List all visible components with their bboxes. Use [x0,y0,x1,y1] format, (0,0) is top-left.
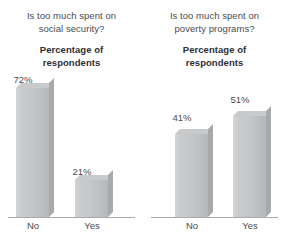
bar-yes [233,116,266,217]
bar-side-face-yes [266,106,271,217]
plot-area: 72% 21% [0,74,143,218]
category-axis-labels: No Yes [143,220,286,236]
bar-value-label: 51% [219,94,261,105]
bar-side-face-yes [108,170,113,217]
chart-title-line-1: Is too much spent on [6,9,137,22]
chart-subtitle: Percentage of respondents [143,35,286,69]
category-label-yes: Yes [227,220,273,231]
chart-subtitle-line-1: Percentage of [0,43,143,56]
bar-value-label: 41% [161,112,203,123]
chart-panel-poverty-programs: Is too much spent on poverty programs? P… [143,0,286,248]
bar-no [175,134,208,217]
category-axis-line [8,217,135,218]
chart-title-line-1: Is too much spent on [149,9,280,22]
bar-no [16,88,49,217]
plot-area: 41% 51% [143,74,286,218]
chart-title: Is too much spent on poverty programs? [143,0,286,35]
category-label-yes: Yes [69,220,115,231]
chart-title-line-2: poverty programs? [149,22,280,35]
category-axis-labels: No Yes [0,220,143,236]
chart-subtitle-line-2: respondents [0,56,143,69]
category-label-no: No [169,220,215,231]
charts-row: Is too much spent on social security? Pe… [0,0,286,248]
bar-yes [75,180,108,217]
chart-title-line-2: social security? [6,22,137,35]
chart-panel-social-security: Is too much spent on social security? Pe… [0,0,143,248]
category-label-no: No [10,220,56,231]
bar-side-face-no [49,78,54,217]
category-axis-line [151,217,278,218]
chart-subtitle-line-1: Percentage of [143,43,286,56]
chart-subtitle-line-2: respondents [143,56,286,69]
chart-subtitle: Percentage of respondents [0,35,143,69]
bar-side-face-no [208,124,213,217]
chart-title: Is too much spent on social security? [0,0,143,35]
